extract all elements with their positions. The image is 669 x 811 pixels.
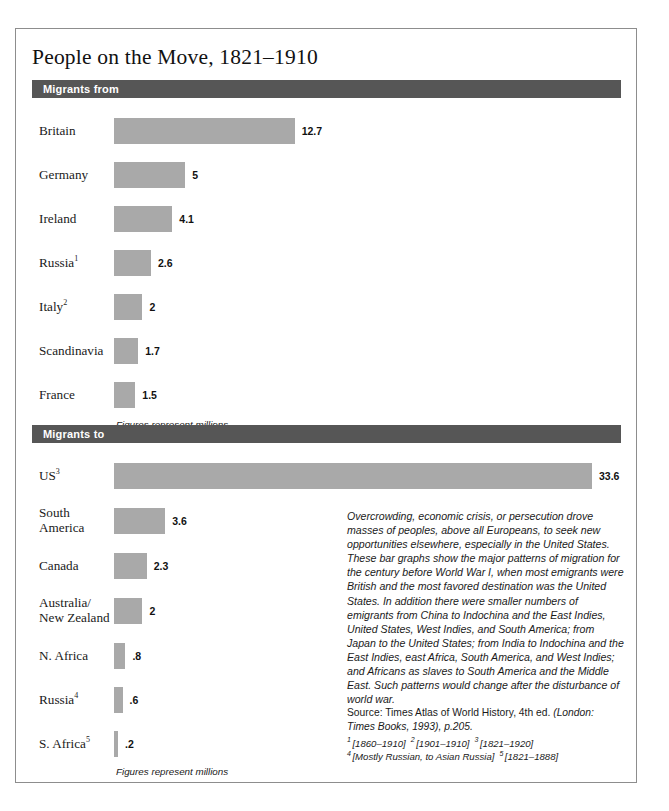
bar-row-label: Australia/ New Zealand [39,596,110,626]
footnote-marker: 4 [74,691,78,700]
bar [114,382,135,408]
footnote-list: 1[1860–1910]2[1901–1910]3[1821–1920]4[Mo… [347,737,624,763]
footnote-marker: 5 [86,735,90,744]
bar [114,508,165,534]
bar-track: 1.5 [114,382,621,408]
bar [114,687,123,713]
bar-track: 4.1 [114,206,621,232]
section-header-migrants-to: Migrants to [32,425,621,443]
bar-value-label: 2 [149,605,155,617]
bar [114,731,118,757]
footnote-text: [Mostly Russian, to Asian Russia] [352,751,494,762]
bar-row: France1.5 [32,373,621,417]
bar-value-label: .6 [130,694,139,706]
footnote-text: [1821–1888] [505,751,558,762]
page-content: People on the Move, 1821–1910 Migrants f… [32,29,620,782]
caption-body: Overcrowding, economic crisis, or persec… [347,509,624,706]
bar-row-label: Britain [39,124,76,139]
bar-row-label: S. Africa5 [39,737,90,752]
bar-track: 2.6 [114,250,621,276]
bar [114,206,172,232]
bar-value-label: 33.6 [599,470,619,482]
bar-value-label: 5 [192,169,198,181]
bar [114,643,125,669]
bar-row-label: Germany [39,168,88,183]
framed-page: People on the Move, 1821–1910 Migrants f… [15,28,637,783]
section-header-migrants-from: Migrants from [32,80,621,98]
bar-row: Germany5 [32,153,621,197]
section-header-label: Migrants from [43,83,119,95]
figures-note-to: Figures represent millions [116,766,228,777]
footnote-line: 1[1860–1910]2[1901–1910]3[1821–1920] [347,737,624,750]
bar-row-label: US3 [39,469,60,484]
bar-value-label: 1.5 [142,389,157,401]
caption-block: Overcrowding, economic crisis, or persec… [347,509,624,763]
bar [114,338,138,364]
bar-row-label: France [39,388,75,403]
bar-value-label: .8 [132,650,141,662]
bar-value-label: 1.7 [145,345,160,357]
bar-value-label: 2.6 [158,257,173,269]
bar-track: 12.7 [114,118,621,144]
bar [114,250,151,276]
chart-migrants-from: Britain12.7Germany5Ireland4.1Russia12.6I… [32,109,621,417]
bar-row: Ireland4.1 [32,197,621,241]
footnote-number: 1 [347,736,351,743]
bar [114,162,185,188]
bar-row-label: N. Africa [39,649,88,664]
bar-row-label: Russia1 [39,256,78,271]
bar-row-label: Scandinavia [39,344,103,359]
footnote-marker: 2 [63,298,67,307]
bar-row: US333.6 [32,454,621,498]
footnote-text: [1821–1920] [480,738,533,749]
bar-row-label: Italy2 [39,300,67,315]
bar-value-label: 12.7 [302,125,322,137]
bar-row: Italy22 [32,285,621,329]
bar [114,294,142,320]
bar-value-label: .2 [125,738,134,750]
footnote-line: 4[Mostly Russian, to Asian Russia]5[1821… [347,750,624,763]
bar-value-label: 2.3 [154,560,169,572]
footnote-number: 3 [475,736,479,743]
footnote-number: 5 [499,750,503,757]
bar-track: 2 [114,294,621,320]
bar-row: Russia12.6 [32,241,621,285]
caption-source: Source: Times Atlas of World History, 4t… [347,706,624,733]
bar [114,463,592,489]
bar-value-label: 3.6 [172,515,187,527]
footnote-marker: 3 [56,467,60,476]
bar-value-label: 4.1 [179,213,194,225]
bar-row: Britain12.7 [32,109,621,153]
bar-row: Scandinavia1.7 [32,329,621,373]
footnote-marker: 1 [74,254,78,263]
bar-row-label: Ireland [39,212,76,227]
bar [114,118,295,144]
bar-track: 33.6 [114,463,621,489]
footnote-text: [1901–1910] [416,738,469,749]
bar-row-label: Canada [39,559,79,574]
footnote-number: 4 [347,750,351,757]
footnote-number: 2 [411,736,415,743]
bar [114,553,147,579]
bar-row-label: Russia4 [39,693,78,708]
caption-source-prefix: Source: Times Atlas of World History, 4t… [347,707,553,718]
page-title: People on the Move, 1821–1910 [32,45,318,70]
bar-track: 5 [114,162,621,188]
bar-track: 1.7 [114,338,621,364]
bar [114,598,142,624]
footnote-text: [1860–1910] [352,738,405,749]
bar-row-label: South America [39,506,84,536]
bar-value-label: 2 [149,301,155,313]
section-header-label: Migrants to [43,428,104,440]
